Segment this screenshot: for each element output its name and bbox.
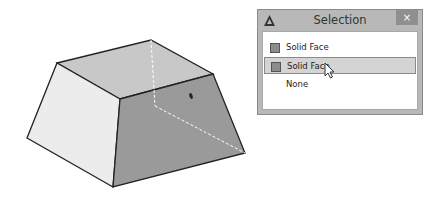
selection-dialog: Selection × Solid Face Solid Face None [257,9,423,115]
3d-viewport[interactable] [0,0,255,197]
selection-list[interactable]: Solid Face Solid Face None [262,31,418,110]
dialog-titlebar[interactable]: Selection × [258,10,422,31]
face-swatch-icon [270,43,280,53]
close-icon: × [403,12,411,23]
list-item-none[interactable]: None [264,76,416,93]
list-item-solid-face-1[interactable]: Solid Face [264,39,416,56]
close-button[interactable]: × [396,10,418,25]
list-item-solid-face-2[interactable]: Solid Face [264,57,416,74]
frustum-model[interactable] [0,0,255,197]
face-swatch-icon [271,62,281,72]
mouse-cursor-icon [324,62,336,79]
